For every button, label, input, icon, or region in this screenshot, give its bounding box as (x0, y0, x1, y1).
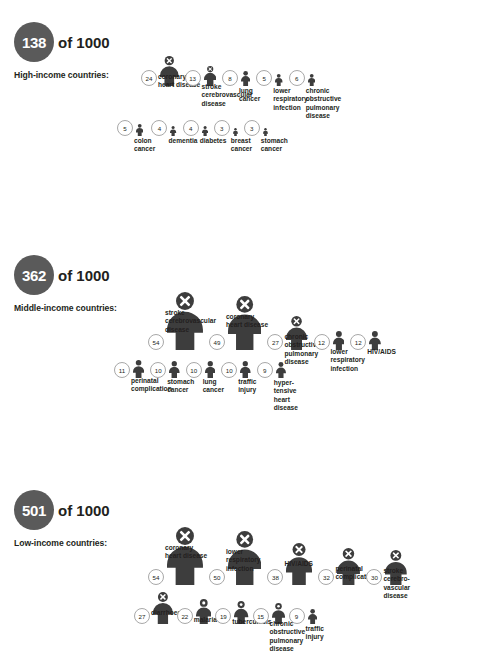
cause-count-badge: 13 (185, 70, 201, 86)
cause-item: 6chronic obstructive pulmonary disease (289, 70, 315, 86)
cause-count-badge: 4 (151, 120, 167, 136)
cause-label: lung cancer (203, 378, 241, 395)
total-deaths-circle: 138 (14, 22, 54, 62)
cause-item: 24coronary heart disease (141, 56, 179, 86)
section-summary: 501of 1000Low-income countries: (14, 490, 144, 548)
person-figure-icon (240, 361, 251, 378)
income-group-caption: Middle-income countries: (14, 303, 144, 313)
cause-count-badge: 4 (183, 120, 199, 136)
cause-item: 12lower respiratory infection (314, 331, 345, 350)
cause-count-badge: 8 (222, 70, 238, 86)
infographic-canvas: 138of 1000High-income countries:24corona… (0, 0, 478, 666)
cause-item: 4diabetes (183, 120, 208, 136)
person-figure-icon (308, 609, 317, 624)
total-deaths-circle: 501 (14, 490, 54, 530)
cause-count-badge: 15 (253, 608, 269, 624)
cause-row: 24coronary heart disease13stroke cerebro… (141, 56, 315, 86)
cause-row: 5colon cancer4dementia4diabetes3breast c… (117, 120, 268, 136)
cause-item: 3stomach cancer (244, 120, 268, 136)
cause-count-badge: 9 (257, 362, 273, 378)
total-deaths-denominator: of 1000 (58, 502, 110, 519)
cause-item: 13stroke cerebrovascular disease (185, 66, 216, 86)
cause-item: 5colon cancer (117, 120, 143, 136)
cause-label: hyper- tensive heart disease (274, 379, 312, 413)
cause-item: 38HIV/AIDS (267, 543, 312, 585)
total-deaths-badge: 138of 1000 (14, 22, 144, 62)
cause-count-badge: 27 (267, 334, 283, 350)
person-figure-icon (308, 74, 315, 86)
cause-count-badge: 19 (215, 608, 231, 624)
person-figure-icon (136, 124, 143, 136)
cause-count-badge: 11 (114, 362, 130, 378)
cause-count-badge: 27 (134, 608, 150, 624)
cause-label: chronic obstructive pulmonary disease (306, 87, 356, 121)
cause-item: 10stomach cancer (150, 361, 180, 378)
cause-count-badge: 10 (150, 362, 166, 378)
cause-item: 22malaria (177, 599, 212, 624)
cause-count-badge: 22 (177, 608, 193, 624)
cause-count-badge: 5 (117, 120, 133, 136)
person-figure-icon (241, 71, 250, 86)
total-deaths-denominator: of 1000 (58, 267, 110, 284)
cause-item: 9traffic injury (289, 608, 317, 624)
cause-item: 30stroke cerebro- vascular disease (366, 550, 407, 585)
cause-item: 11perinatal complication (114, 360, 144, 378)
cause-item: 19tuberculosis (215, 601, 248, 624)
cause-count-badge: 50 (209, 569, 225, 585)
cause-count-badge: 54 (148, 334, 164, 350)
cause-label: traffic injury (238, 378, 272, 395)
cause-row: 11perinatal complication10stomach cancer… (114, 360, 286, 378)
cause-count-badge: 5 (256, 70, 272, 86)
section-summary: 138of 1000High-income countries: (14, 22, 144, 80)
person-figure-icon (275, 74, 282, 86)
cause-item: 5lower respiratory infection (256, 70, 282, 86)
cause-count-badge: 38 (267, 569, 283, 585)
person-figure-icon (170, 126, 176, 136)
person-figure-icon (202, 126, 208, 136)
cause-count-badge: 10 (186, 362, 202, 378)
cause-count-badge: 3 (244, 120, 260, 136)
income-group-caption: Low-income countries: (14, 538, 144, 548)
cause-item: 10traffic injury (221, 361, 251, 378)
cause-item: 27diarrhoea (134, 592, 173, 624)
total-deaths-circle: 362 (14, 255, 54, 295)
person-figure-death-icon (153, 592, 173, 624)
cause-count-badge: 9 (289, 608, 305, 624)
cause-count-badge: 49 (209, 334, 225, 350)
cause-item: 49coronary heart disease (209, 296, 261, 350)
cause-item: 50lower respiratory infection (209, 531, 261, 585)
cause-label: breast cancer (231, 137, 265, 154)
income-group-caption: High-income countries: (14, 70, 144, 80)
cause-count-badge: 10 (221, 362, 237, 378)
cause-item: 15chronic obstructive pulmonary disease (253, 603, 285, 624)
cause-item: 3breast cancer (214, 120, 238, 136)
total-deaths-badge: 362of 1000 (14, 255, 144, 295)
cause-item: 12HIV/AIDS (350, 331, 381, 350)
cause-item: 27chronic obstructive pulmonary disease (267, 316, 307, 350)
cause-item: 10lung cancer (186, 361, 216, 378)
cause-count-badge: 3 (214, 120, 230, 136)
cause-label: stroke cerebro- vascular disease (383, 567, 429, 601)
person-figure-icon (169, 361, 180, 378)
person-figure-icon (263, 128, 268, 136)
cause-item: 32perinatal complication (318, 548, 360, 585)
cause-item: 9hyper- tensive heart disease (257, 362, 286, 378)
cause-item: 54coronary heart disease (148, 527, 203, 585)
cause-count-badge: 54 (148, 569, 164, 585)
person-figure-icon (205, 361, 216, 378)
person-figure-icon (133, 360, 144, 378)
cause-count-badge: 30 (366, 569, 382, 585)
total-deaths-badge: 501of 1000 (14, 490, 144, 530)
total-deaths-denominator: of 1000 (58, 34, 110, 51)
cause-row: 27diarrhoea22malaria19tuberculosis15chro… (134, 592, 317, 624)
cause-label: traffic injury (306, 625, 336, 642)
cause-count-badge: 6 (289, 70, 305, 86)
section-summary: 362of 1000Middle-income countries: (14, 255, 144, 313)
person-figure-icon (276, 362, 286, 378)
cause-item: 8lung cancer (222, 70, 250, 86)
cause-row: 54stroke cerebrovascular disease49corona… (148, 292, 381, 350)
cause-count-badge: 32 (318, 569, 334, 585)
cause-label: HIV/AIDS (367, 348, 407, 356)
cause-item: 4dementia (151, 120, 176, 136)
cause-count-badge: 12 (314, 334, 330, 350)
